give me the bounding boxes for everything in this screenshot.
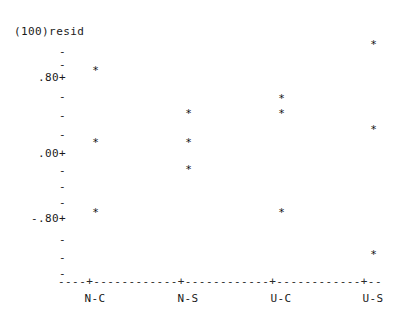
x-axis-tick-label-n-c: N-C (75, 292, 115, 305)
data-point-marker: * (184, 164, 193, 176)
data-point-marker: * (277, 108, 286, 120)
x-axis-tick-label-u-s: U-S (353, 292, 393, 305)
data-point-marker: * (91, 65, 100, 77)
data-point-marker: * (277, 207, 286, 219)
data-point-marker: * (91, 137, 100, 149)
x-axis-tick-label-n-s: N-S (168, 292, 208, 305)
data-point-marker: * (184, 108, 193, 120)
dotplot-chart: (100)resid --.80+---.00+----.80+--- ****… (0, 0, 408, 326)
data-point-marker: * (91, 207, 100, 219)
x-axis-tick-label-u-c: U-C (261, 292, 301, 305)
data-point-marker: * (369, 39, 378, 51)
data-point-marker: * (369, 249, 378, 261)
x-axis-line: ----+------------+------------+---------… (58, 276, 394, 288)
data-point-marker: * (277, 93, 286, 105)
data-point-marker: * (369, 124, 378, 136)
data-point-marker: * (184, 137, 193, 149)
